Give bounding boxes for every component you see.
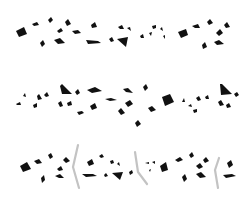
- shard-pattern-canvas: [0, 0, 249, 223]
- background: [0, 0, 249, 223]
